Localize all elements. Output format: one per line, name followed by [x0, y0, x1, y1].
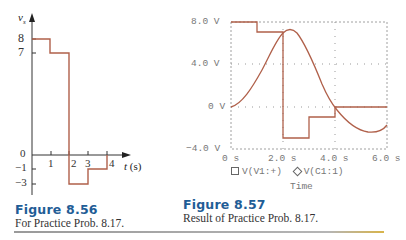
y-tick-minus4v: −4.0 V	[186, 143, 220, 154]
figure-caption: For Practice Prob. 8.17.	[15, 217, 124, 229]
x-tick-6s: 6.0 s	[372, 153, 401, 164]
x-tick-4s: 4.0 s	[320, 153, 349, 164]
figure-label: Figure 8.56	[15, 202, 98, 217]
x-tick-0s: 0 s	[222, 153, 239, 164]
y-tick-4v: 4.0 V	[191, 58, 220, 69]
y-tick-8v: 8.0 V	[191, 16, 220, 27]
legend: V(V1:+) V(C1:1)	[231, 166, 344, 177]
diamond-icon	[292, 167, 302, 177]
series-vv1	[231, 22, 387, 138]
legend-series-vc1: V(C1:1)	[304, 166, 344, 177]
x-tick-2s: 2.0 s	[268, 153, 297, 164]
simulation-plot	[0, 0, 406, 200]
x-axis-label-time: Time	[290, 181, 313, 192]
y-tick-0v: 0 V	[208, 101, 225, 112]
figure-caption: Result of Practice Prob. 8.17.	[183, 212, 318, 224]
figure-label: Figure 8.57	[183, 197, 266, 212]
square-icon	[231, 167, 239, 175]
legend-series-vv1: V(V1:+)	[242, 166, 282, 177]
page-divider	[14, 231, 384, 233]
